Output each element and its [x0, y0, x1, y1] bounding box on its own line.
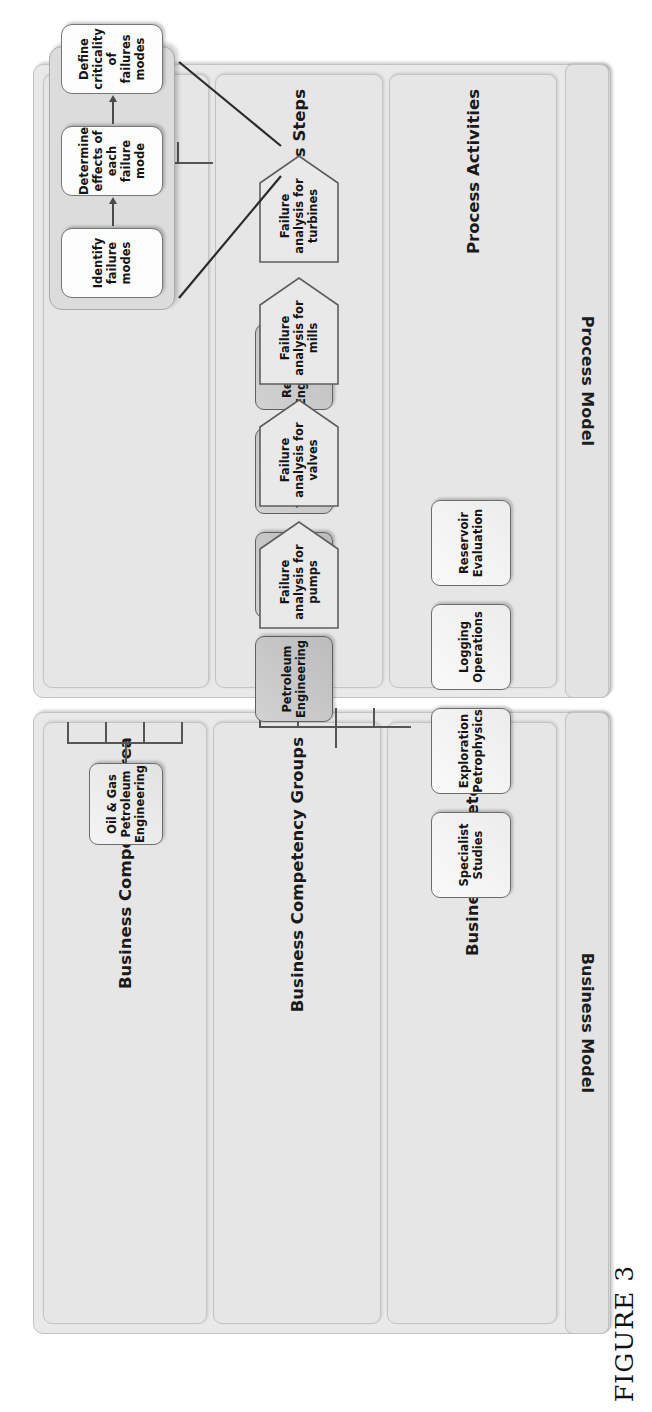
node-logging-operations[interactable]: Logging Operations	[431, 604, 511, 690]
node-label: Logging Operations	[457, 608, 485, 686]
process-model-title-label: Process Model	[578, 316, 597, 446]
arrow-head-determine-to-define	[109, 95, 117, 102]
node-failure-analysis-for-valves[interactable]: Failure analysis for valves	[259, 399, 339, 507]
node-label: Identify failure modes	[91, 232, 133, 294]
node-determine-effects-of-each-failure-mode[interactable]: Determine effects of each failure mode	[61, 126, 163, 196]
node-label: Specialist Studies	[457, 816, 485, 894]
connector-group-to-competencies-spine	[335, 726, 337, 748]
connector-spine-to-production-technology	[143, 722, 145, 744]
node-label: Reservoir Evaluation	[457, 504, 485, 582]
node-label: Failure analysis for turbines	[278, 155, 320, 263]
process-model-title: Process Model	[565, 64, 609, 698]
node-petroleum-engineering[interactable]: Petroleum Engineering	[255, 636, 333, 722]
node-label: Exploration Petrophysics	[457, 709, 485, 793]
connector-area-to-spine	[125, 742, 127, 764]
lane-label-process-activities: Process Activities	[390, 89, 556, 254]
node-label: Failure analysis for valves	[278, 399, 320, 507]
node-reservoir-evaluation[interactable]: Reservoir Evaluation	[431, 500, 511, 586]
node-failure-analysis-for-mills[interactable]: Failure analysis for mills	[259, 277, 339, 385]
connector-spine-to-turbines	[177, 142, 179, 164]
connector-spine-to-reservoir-evaluation	[373, 708, 375, 728]
connector-spine-to-petroleum-engineering	[67, 722, 69, 744]
node-oil-gas-petroleum-engineering[interactable]: Oil & Gas Petroleum Engineering	[89, 763, 163, 845]
business-model-title: Business Model	[565, 712, 609, 1334]
node-failure-analysis-for-turbines[interactable]: Failure analysis for turbines	[259, 155, 339, 263]
node-failure-analysis-for-pumps[interactable]: Failure analysis for pumps	[259, 521, 339, 629]
connector-spine-to-logging-operations	[335, 708, 337, 728]
node-label: Determine effects of each failure mode	[77, 127, 147, 195]
business-model-title-label: Business Model	[578, 953, 597, 1093]
connector-spine-to-petrophysics	[105, 722, 107, 744]
connector-spine-to-reservoir-engineering	[181, 722, 183, 744]
node-define-criticality-of-failures-modes[interactable]: Define criticality of failures modes	[61, 24, 163, 94]
node-label: Failure analysis for mills	[278, 277, 320, 385]
node-label: Failure analysis for pumps	[278, 521, 320, 629]
lane-process-activities[interactable]: Process Activities	[389, 74, 557, 688]
arrow-identify-to-determine	[112, 204, 114, 226]
swimlane-diagram: Business Model Business Competency Area …	[33, 64, 611, 1334]
node-specialist-studies[interactable]: Specialist Studies	[431, 812, 511, 898]
node-label: Oil & Gas Petroleum Engineering	[105, 765, 147, 843]
node-exploration-petrophysics[interactable]: Exploration Petrophysics	[431, 708, 511, 794]
lane-business-competency-groups[interactable]: Business Competency Groups	[213, 722, 381, 1324]
node-identify-failure-modes[interactable]: Identify failure modes	[61, 228, 163, 298]
arrow-head-identify-to-determine	[109, 197, 117, 204]
node-label: Define criticality of failures modes	[77, 28, 147, 90]
node-label: Petroleum Engineering	[280, 640, 308, 718]
rotated-diagram-stage: FIGURE 3 Business Model Business Compete…	[0, 0, 652, 1412]
connector-groups-spine	[67, 742, 183, 744]
lane-label-business-competency-groups: Business Competency Groups	[214, 737, 380, 1012]
arrow-determine-to-define	[112, 102, 114, 124]
